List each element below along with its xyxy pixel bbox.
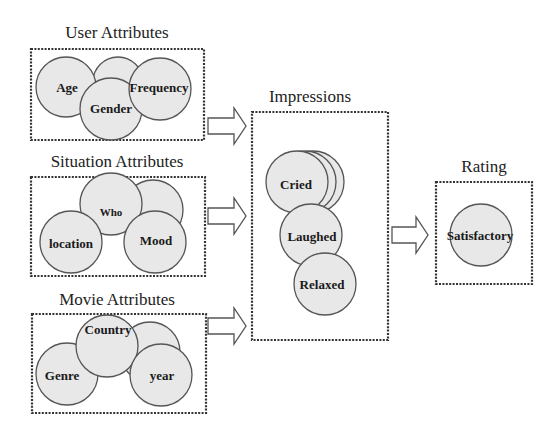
arrow-impressions-to-rating-icon [392,217,428,253]
label-year: year [150,368,175,383]
group-user-attributes: User Attributes Age Gender Frequency [31,23,204,140]
group-title-situation: Situation Attributes [51,152,184,171]
group-rating: Rating Satisfactory [436,157,532,284]
arrow-movie-to-impressions-icon [208,308,246,344]
label-country: Country [85,322,132,337]
label-age: Age [56,80,78,95]
label-frequency: Frequency [130,80,189,95]
group-title-impressions: Impressions [269,87,351,106]
label-satisfactory: Satisfactory [447,228,514,243]
label-location: location [49,236,94,251]
label-laughed: Laughed [287,229,337,244]
label-relaxed: Relaxed [300,277,346,292]
group-impressions: Impressions Cried Laughed Relaxed [252,87,388,340]
label-gender: Gender [90,101,132,116]
group-situation-attributes: Situation Attributes Who location Mood [31,152,205,276]
label-genre: Genre [45,368,80,383]
group-title-user: User Attributes [65,23,168,42]
group-title-movie: Movie Attributes [59,290,175,309]
label-mood: Mood [140,233,173,248]
arrow-user-to-impressions-icon [208,108,246,144]
group-title-rating: Rating [461,157,507,176]
label-who: Who [100,206,123,218]
arrow-situation-to-impressions-icon [208,198,246,234]
label-cried: Cried [280,177,313,192]
group-movie-attributes: Movie Attributes Country Genre year [32,290,206,413]
diagram-canvas: User Attributes Age Gender Frequency Sit… [0,0,559,435]
